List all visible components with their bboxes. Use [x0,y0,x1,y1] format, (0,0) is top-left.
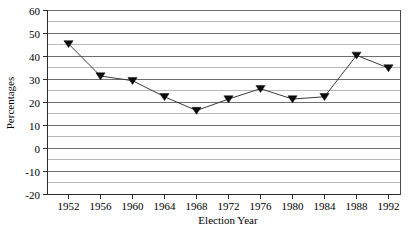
x-tick-label-1956: 1956 [90,200,113,212]
y-tick-label-neg20: -20 [25,189,40,201]
chart-figure: 60 50 40 30 20 10 0 -10 -20 1952 1956 [0,0,416,236]
line-chart: 60 50 40 30 20 10 0 -10 -20 1952 1956 [0,0,416,236]
y-tick-label-neg10: -10 [25,166,40,178]
x-axis-tick-labels: 1952 1956 1960 1964 1968 1972 1976 1980 … [58,200,400,212]
y-tick-label-60: 60 [29,5,41,17]
x-axis-title: Election Year [198,214,258,226]
y-axis-title: Percentages [4,77,16,130]
y-tick-label-10: 10 [29,120,41,132]
figure-caption-fragment [0,229,416,236]
y-tick-label-30: 30 [29,74,41,86]
x-tick-label-1968: 1968 [186,200,209,212]
x-tick-label-1984: 1984 [314,200,337,212]
y-tick-label-0: 0 [35,143,41,155]
y-tick-label-40: 40 [29,51,41,63]
y-tick-label-50: 50 [29,28,41,40]
x-tick-label-1988: 1988 [346,200,369,212]
x-tick-label-1960: 1960 [122,200,145,212]
x-tick-label-1964: 1964 [154,200,177,212]
x-tick-label-1972: 1972 [218,200,240,212]
y-tick-label-20: 20 [29,97,41,109]
x-tick-label-1992: 1992 [378,200,400,212]
x-tick-label-1980: 1980 [282,200,305,212]
x-tick-label-1952: 1952 [58,200,80,212]
x-tick-label-1976: 1976 [250,200,273,212]
